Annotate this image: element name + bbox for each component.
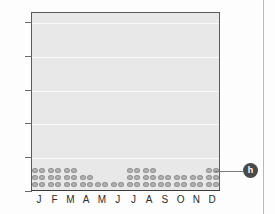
data-dot [150, 175, 156, 180]
data-dot [150, 168, 156, 173]
data-dot [150, 182, 156, 187]
data-dot [127, 175, 133, 180]
data-dot [80, 182, 86, 187]
data-dot [143, 175, 149, 180]
data-dot [190, 182, 196, 187]
y-axis-tick [25, 157, 32, 158]
y-axis-line [31, 12, 32, 191]
x-axis-tick-label: J [125, 194, 141, 206]
data-dot [197, 182, 203, 187]
gridline [32, 124, 219, 125]
x-axis-tick-label: A [141, 194, 157, 206]
data-dot [190, 175, 196, 180]
x-axis-tick-label: J [31, 194, 47, 206]
y-axis-tick [25, 56, 32, 57]
data-dot [206, 168, 212, 173]
data-dot [197, 175, 203, 180]
y-axis-tick [25, 22, 32, 23]
data-dot [134, 182, 140, 187]
data-dot [64, 182, 70, 187]
data-dot [55, 182, 61, 187]
data-dot [127, 182, 133, 187]
data-dot [213, 175, 219, 180]
x-axis-line [31, 190, 220, 191]
data-dot [71, 182, 77, 187]
gridline [32, 158, 219, 159]
data-dot [64, 175, 70, 180]
gridline [32, 91, 219, 92]
data-dot [111, 182, 117, 187]
x-axis-tick-label: S [157, 194, 173, 206]
x-axis-tick-label: M [94, 194, 110, 206]
data-dot [181, 182, 187, 187]
data-dot [87, 182, 93, 187]
x-axis-tick-label: N [188, 194, 204, 206]
data-dot [87, 175, 93, 180]
data-dot [143, 182, 149, 187]
x-axis-tick-label: O [173, 194, 189, 206]
data-dot [213, 182, 219, 187]
y-axis-tick [25, 90, 32, 91]
callout-badge-h[interactable]: h [243, 163, 258, 178]
data-dot [174, 182, 180, 187]
data-dot [118, 182, 124, 187]
x-axis-tick-label: F [47, 194, 63, 206]
y-axis-tick [25, 191, 32, 192]
dot-plot-chart: JFMAMJJASOND 0510152025 [0, 0, 230, 214]
data-dot [143, 168, 149, 173]
data-dot [206, 175, 212, 180]
x-axis-tick-label: M [62, 194, 78, 206]
x-axis-tick-label: A [78, 194, 94, 206]
x-axis-tick-label: J [110, 194, 126, 206]
x-axis-tick-label: D [204, 194, 220, 206]
plot-area [31, 12, 220, 191]
right-divider-rule [263, 0, 264, 214]
gridline [32, 57, 219, 58]
data-dot [80, 175, 86, 180]
screenshot-root: JFMAMJJASOND 0510152025 h [0, 0, 275, 214]
callout-leader-line [215, 171, 243, 172]
data-dot [206, 182, 212, 187]
data-dot [71, 175, 77, 180]
data-dot [134, 175, 140, 180]
y-axis-tick [25, 123, 32, 124]
data-dot [48, 182, 54, 187]
gridline [32, 23, 219, 24]
